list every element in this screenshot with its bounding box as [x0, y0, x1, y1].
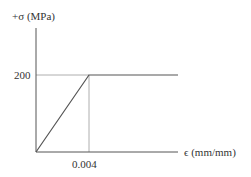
x-axis-label: ϵ (mm/mm) — [184, 146, 236, 159]
y-axis-label: +σ (MPa) — [12, 10, 55, 23]
stress-strain-chart: +σ (MPa) 200 0.004 ϵ (mm/mm) — [0, 0, 251, 177]
x-tick-label: 0.004 — [72, 158, 97, 170]
y-tick-label: 200 — [14, 69, 31, 81]
stress-strain-curve — [36, 75, 178, 152]
